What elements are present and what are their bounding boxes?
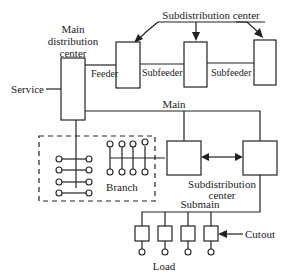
feeder-label: Feeder — [91, 68, 119, 79]
subfeeder-label-2: Subfeeder — [211, 67, 252, 78]
subdistribution-center-pointer-arrows — [134, 22, 265, 43]
subfeeder-label-1: Subfeeder — [142, 67, 183, 78]
cutout-pointer — [218, 230, 243, 238]
svg-text:Main: Main — [61, 23, 85, 35]
subdistribution-center-box-2 — [184, 42, 207, 87]
main-label: Main — [162, 98, 186, 110]
service-label: Service — [11, 83, 44, 95]
subdistribution-center-top-label: Subdistribution center — [162, 9, 260, 21]
svg-text:center: center — [60, 47, 87, 59]
load-circuits — [135, 212, 218, 255]
subdistribution-center-box-3 — [254, 40, 276, 85]
branch-label: Branch — [106, 181, 138, 193]
branch-circuits-right — [107, 139, 165, 175]
bidirectional-arrow — [201, 153, 243, 161]
submain-label: Submain — [180, 198, 220, 210]
load-label: Load — [153, 260, 176, 272]
subdistribution-center-box-5 — [243, 141, 277, 175]
main-line — [85, 111, 260, 143]
subdistribution-center-box-1 — [116, 42, 140, 88]
branch-circuits-left — [56, 156, 92, 196]
subdistribution-center-box-4 — [167, 141, 201, 175]
cutout-label: Cutout — [245, 228, 275, 240]
main-distribution-center-box — [61, 58, 85, 120]
svg-text:distribution: distribution — [48, 35, 99, 47]
main-distribution-center-label: Main distribution center — [48, 23, 99, 59]
distribution-diagram: Main distribution center Service Subdist… — [0, 0, 288, 278]
